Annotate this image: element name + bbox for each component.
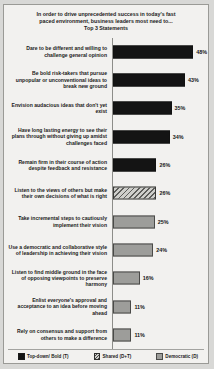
legend-label: Top-down/ Bold (T)	[27, 354, 69, 359]
bar-value-label: 11%	[134, 304, 145, 310]
bar	[113, 102, 172, 115]
legend-item[interactable]: Shared (D+T)	[94, 353, 132, 360]
bar-category-label: Remain firm in their course of action de…	[8, 159, 112, 172]
bar-value-label: 26%	[159, 162, 170, 168]
bar-category-label: Listen to the views of others but make t…	[8, 187, 112, 200]
bar	[113, 74, 185, 87]
bar-plot-area: 26%	[112, 179, 204, 207]
chart-legend: Top-down/ Bold (T)Shared (D+T)Democratic…	[8, 349, 204, 363]
legend-label: Shared (D+T)	[103, 354, 132, 359]
bar-category-label: Be bold risk-takers that pursue unpopula…	[8, 70, 112, 89]
bar-row: Rely on consensus and support from other…	[8, 321, 204, 349]
bar	[113, 328, 131, 341]
bar-row: Listen to find middle ground in the face…	[8, 264, 204, 292]
bar-category-label: Dare to be different and willing to chal…	[8, 45, 112, 58]
bar-row: Remain firm in their course of action de…	[8, 151, 204, 179]
bar-row: Have long lasting energy to see their pl…	[8, 123, 204, 151]
bar-row: Listen to the views of others but make t…	[8, 179, 204, 207]
bar-plot-area: 26%	[112, 151, 204, 179]
bar-plot-area: 11%	[112, 321, 204, 349]
bar-value-label: 24%	[156, 247, 167, 253]
chart-title: In order to drive unprecedented success …	[12, 11, 200, 33]
title-line-3: Top 3 Statements	[12, 25, 200, 32]
bar-row: Use a democratic and collaborative style…	[8, 236, 204, 264]
bar-row: Dare to be different and willing to chal…	[8, 38, 204, 66]
bar-chart: Dare to be different and willing to chal…	[8, 38, 204, 349]
bar	[113, 45, 193, 58]
legend-swatch-icon	[94, 353, 101, 360]
bar-value-label: 25%	[158, 219, 169, 225]
bar-value-label: 11%	[134, 332, 145, 338]
slide-canvas: In order to drive unprecedented success …	[3, 4, 209, 364]
bar	[113, 300, 131, 313]
bar-row: Be bold risk-takers that pursue unpopula…	[8, 66, 204, 94]
bar-value-label: 16%	[143, 275, 154, 281]
bar-category-label: Enlist everyone's approval and acceptanc…	[8, 297, 112, 316]
bar-plot-area: 11%	[112, 292, 204, 320]
bar-plot-area: 34%	[112, 123, 204, 151]
bar-row: Enlist everyone's approval and acceptanc…	[8, 292, 204, 320]
bar-category-label: Envision audacious ideas that don't yet …	[8, 102, 112, 115]
bar	[113, 158, 156, 171]
bar-category-label: Listen to find middle ground in the face…	[8, 269, 112, 288]
legend-swatch-icon	[156, 353, 163, 360]
bar	[113, 215, 155, 228]
bar-value-label: 43%	[188, 77, 199, 83]
bar-plot-area: 48%	[112, 38, 204, 66]
bar-row: Take incremental steps to cautiously imp…	[8, 207, 204, 235]
bar-rows: Dare to be different and willing to chal…	[8, 38, 204, 349]
bar	[113, 187, 156, 200]
legend-item[interactable]: Top-down/ Bold (T)	[18, 353, 69, 360]
legend-swatch-icon	[18, 353, 25, 360]
bar-category-label: Rely on consensus and support from other…	[8, 328, 112, 341]
bar-plot-area: 35%	[112, 94, 204, 122]
title-line-2: paced environment, business leaders most…	[12, 18, 200, 25]
bar-plot-area: 25%	[112, 207, 204, 235]
bar-plot-area: 43%	[112, 66, 204, 94]
bar-plot-area: 24%	[112, 236, 204, 264]
title-line-1: In order to drive unprecedented success …	[12, 11, 200, 18]
bar	[113, 130, 170, 143]
bar	[113, 272, 140, 285]
bar-value-label: 26%	[159, 190, 170, 196]
bar-value-label: 34%	[173, 134, 184, 140]
bar-plot-area: 16%	[112, 264, 204, 292]
bar-category-label: Use a democratic and collaborative style…	[8, 244, 112, 257]
bar-row: Envision audacious ideas that don't yet …	[8, 94, 204, 122]
bar-value-label: 48%	[196, 49, 207, 55]
bar	[113, 243, 153, 256]
bar-value-label: 35%	[175, 105, 186, 111]
legend-item[interactable]: Democratic (D)	[156, 353, 198, 360]
legend-label: Democratic (D)	[165, 354, 198, 359]
bar-category-label: Take incremental steps to cautiously imp…	[8, 215, 112, 228]
bar-category-label: Have long lasting energy to see their pl…	[8, 127, 112, 146]
